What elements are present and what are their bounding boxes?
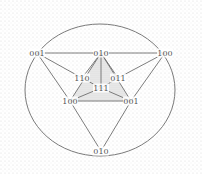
node-label: 010 bbox=[93, 49, 108, 58]
node-label: 100 bbox=[157, 49, 172, 58]
node-label: 100 bbox=[62, 97, 77, 106]
node-top_010: 010 bbox=[93, 49, 109, 59]
node-n111: 111 bbox=[93, 84, 109, 94]
node-label: 011 bbox=[110, 74, 125, 83]
node-n110: 110 bbox=[74, 74, 90, 84]
node-label: 001 bbox=[29, 49, 44, 58]
node-inner_100: 100 bbox=[62, 97, 78, 107]
diagram-canvas: 001010100110011111100001010 bbox=[0, 0, 202, 174]
node-label: 010 bbox=[93, 147, 108, 156]
node-bottom_010: 010 bbox=[93, 147, 109, 157]
node-outer_100: 100 bbox=[157, 49, 173, 59]
node-outer_001: 001 bbox=[29, 49, 45, 59]
node-label: 001 bbox=[123, 97, 138, 106]
node-inner_001: 001 bbox=[123, 97, 139, 107]
node-label: 110 bbox=[74, 74, 89, 83]
hypercube-diagram: 001010100110011111100001010 bbox=[0, 0, 202, 174]
node-n011: 011 bbox=[110, 74, 126, 84]
node-label: 111 bbox=[93, 84, 108, 93]
